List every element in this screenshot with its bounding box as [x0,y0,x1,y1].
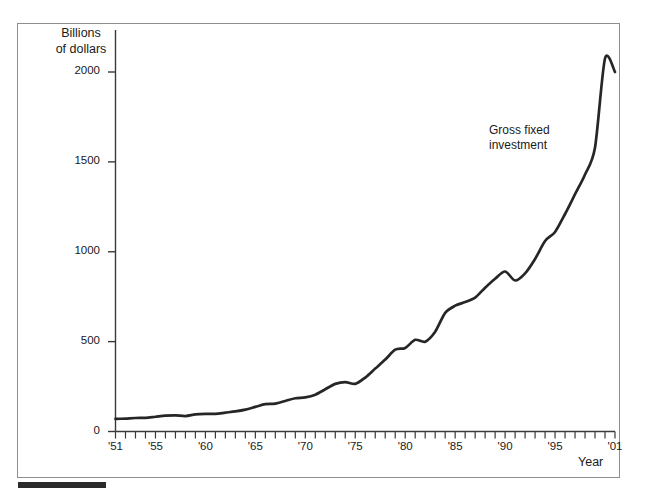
x-tick-label: '85 [440,440,470,452]
y-axis-label: Billions of dollars [41,26,121,57]
x-tick-label: '60 [190,440,220,452]
series-line-gross-fixed-investment [116,56,616,419]
x-tick-label: '95 [540,440,570,452]
series-annotation-gross-fixed-investment: Gross fixed investment [489,123,550,153]
y-axis-ticks [108,72,116,432]
x-axis-ticks [116,432,616,439]
x-tick-label: '65 [240,440,270,452]
y-tick-label: 500 [60,334,100,346]
series-group [116,56,616,419]
x-tick-label: '80 [390,440,420,452]
x-tick-label: '70 [290,440,320,452]
x-tick-label: '55 [140,440,170,452]
axes-group [116,30,616,432]
y-tick-label: 1000 [60,244,100,256]
x-tick-label: '75 [340,440,370,452]
x-tick-label: '90 [490,440,520,452]
y-tick-label: 2000 [60,64,100,76]
y-tick-label: 1500 [60,154,100,166]
x-tick-label: '01 [600,440,630,452]
x-axis-label: Year [578,455,603,471]
x-tick-label: '51 [101,440,131,452]
y-tick-label: 0 [60,424,100,436]
